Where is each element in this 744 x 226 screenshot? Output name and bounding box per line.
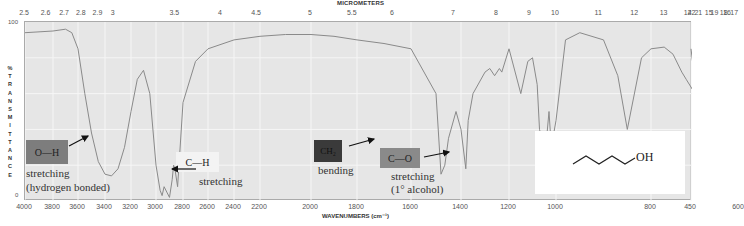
y-tick-0: 0 bbox=[15, 192, 18, 198]
y-title-letter: I bbox=[6, 121, 14, 129]
oh-label-line2: (hydrogen bonded) bbox=[26, 181, 110, 193]
top-tick: 2.8 bbox=[76, 9, 86, 16]
y-title-letter: T bbox=[6, 130, 14, 138]
top-tick: 12 bbox=[630, 9, 638, 16]
top-tick: 9 bbox=[527, 9, 531, 16]
bottom-axis-title: WAVENUMBERS (cm⁻¹) bbox=[322, 212, 389, 219]
bottom-tick: 2000 bbox=[302, 203, 318, 210]
oh-label-line1: stretching bbox=[26, 167, 69, 179]
y-title-letter: E bbox=[6, 171, 14, 179]
bottom-tick: 3800 bbox=[44, 203, 60, 210]
bottom-tick: 2400 bbox=[225, 203, 241, 210]
top-tick: 4.5 bbox=[251, 9, 261, 16]
co-label-box: C—O bbox=[380, 148, 420, 168]
top-tick: 2.7 bbox=[59, 9, 69, 16]
y-tick-100: 100 bbox=[8, 19, 18, 25]
bottom-tick: 1000 bbox=[547, 203, 563, 210]
top-tick: 21 bbox=[694, 9, 702, 16]
top-tick: 2.6 bbox=[41, 9, 51, 16]
bottom-tick: 1200 bbox=[500, 203, 516, 210]
y-title-letter: R bbox=[6, 80, 14, 88]
bottom-tick: 2600 bbox=[199, 203, 215, 210]
bottom-tick: 3600 bbox=[69, 203, 85, 210]
bottom-tick: 600 bbox=[732, 203, 744, 210]
y-title-letter: % bbox=[6, 64, 14, 72]
y-title-letter: C bbox=[6, 162, 14, 170]
top-tick: 2.9 bbox=[93, 9, 103, 16]
bottom-tick: 800 bbox=[644, 203, 656, 210]
bottom-tick: 1400 bbox=[452, 203, 468, 210]
y-title-letter: T bbox=[6, 138, 14, 146]
top-tick: 22 bbox=[688, 9, 696, 16]
bottom-tick: 3400 bbox=[96, 203, 112, 210]
top-tick: 10 bbox=[551, 9, 559, 16]
bottom-tick: 3200 bbox=[122, 203, 138, 210]
top-tick: 2.5 bbox=[19, 9, 29, 16]
top-tick: 19 bbox=[711, 9, 719, 16]
y-title-letter: N bbox=[6, 154, 14, 162]
ch-label-line1: stretching bbox=[199, 175, 242, 187]
top-tick: 5.5 bbox=[347, 9, 357, 16]
top-tick: 11 bbox=[595, 9, 602, 16]
co-label-line2: (1° alcohol) bbox=[391, 183, 443, 195]
bottom-tick: 450 bbox=[684, 203, 696, 210]
top-tick: 4 bbox=[218, 9, 222, 16]
structure-oh-label: OH bbox=[636, 150, 653, 165]
bottom-tick: 2800 bbox=[174, 203, 190, 210]
bottom-tick: 2200 bbox=[251, 203, 267, 210]
y-title-letter: A bbox=[6, 146, 14, 154]
top-tick: 3 bbox=[111, 9, 115, 16]
y-title-letter: N bbox=[6, 97, 14, 105]
oh-label-box: O—H bbox=[26, 140, 68, 164]
y-title-letter: S bbox=[6, 105, 14, 113]
top-tick: 8 bbox=[494, 9, 498, 16]
bottom-tick: 1600 bbox=[402, 203, 418, 210]
y-title-letter: A bbox=[6, 89, 14, 97]
ch2-label-box: CH₂ bbox=[314, 140, 342, 162]
ch-label-box: C—H bbox=[176, 152, 219, 172]
top-tick: 5 bbox=[308, 9, 312, 16]
y-axis-title: %TRANSMITTANCE bbox=[6, 64, 14, 179]
top-tick: 6 bbox=[390, 9, 394, 16]
bottom-tick: 1800 bbox=[348, 203, 364, 210]
top-tick: 17 bbox=[730, 9, 738, 16]
top-tick: 3.5 bbox=[169, 9, 179, 16]
top-axis-title: MICROMETERS bbox=[337, 0, 384, 6]
co-label-line1: stretching bbox=[391, 170, 434, 182]
y-title-letter: T bbox=[6, 72, 14, 80]
top-tick: 7 bbox=[451, 9, 455, 16]
pentanol-skeletal-icon bbox=[535, 131, 685, 194]
y-title-letter: M bbox=[6, 113, 14, 121]
molecule-structure-panel: OH bbox=[535, 131, 685, 194]
bottom-tick: 4000 bbox=[16, 203, 32, 210]
top-tick: 18 bbox=[720, 9, 728, 16]
bottom-tick: 3000 bbox=[147, 203, 163, 210]
ch2-label-line1: bending bbox=[318, 164, 353, 176]
top-tick: 13 bbox=[660, 9, 668, 16]
